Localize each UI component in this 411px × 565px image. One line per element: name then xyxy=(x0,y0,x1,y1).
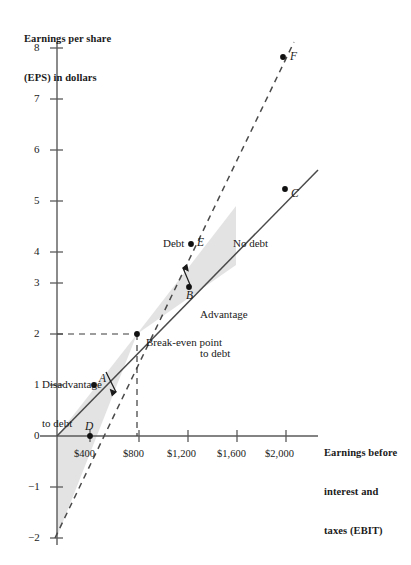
y-axis-title-line2: (EPS) in dollars xyxy=(24,71,111,84)
x-tick-label-2000: $2,000 xyxy=(265,448,294,459)
y-tick-label-5: 5 xyxy=(34,194,40,206)
y-tick-label-neg2: −2 xyxy=(28,531,40,543)
no-debt-line-label: No debt xyxy=(233,237,268,250)
y-tick-label-1: 1 xyxy=(34,378,40,390)
point-label-E: E xyxy=(197,236,204,248)
y-tick-label-8: 8 xyxy=(34,41,40,53)
y-tick-label-3: 3 xyxy=(34,276,40,288)
disadvantage-to-debt-line1: Disadvantage xyxy=(42,378,102,391)
y-tick-label-4: 4 xyxy=(34,245,40,257)
y-tick-label-7: 7 xyxy=(34,92,40,104)
y-tick-label-neg1: −1 xyxy=(28,480,40,492)
eps-ebit-chart: Earnings per share (EPS) in dollars Earn… xyxy=(0,0,411,565)
point-E xyxy=(188,241,194,247)
point-F xyxy=(280,54,286,60)
advantage-to-debt-line2: to debt xyxy=(200,347,248,360)
debt-line xyxy=(55,42,294,538)
y-tick-label-2: 2 xyxy=(34,327,40,339)
x-axis-title-line2: interest and xyxy=(324,485,397,498)
point-C xyxy=(282,186,288,192)
disadvantage-to-debt-line2: to debt xyxy=(42,417,102,430)
x-tick-label-1600: $1,600 xyxy=(217,448,246,459)
y-tick-label-0: 0 xyxy=(34,429,40,441)
point-label-C: C xyxy=(291,187,299,199)
advantage-to-debt-line1: Advantage xyxy=(200,308,248,321)
disadvantage-to-debt-label: Disadvantage to debt xyxy=(42,352,102,456)
point-label-B: B xyxy=(186,289,193,301)
x-axis-title-line1: Earnings before xyxy=(324,446,397,459)
x-tick-label-1200: $1,200 xyxy=(167,448,196,459)
point-label-F: F xyxy=(290,50,297,62)
advantage-to-debt-label: Advantage to debt xyxy=(200,282,248,386)
debt-line-label: Debt xyxy=(163,237,184,250)
y-tick-label-6: 6 xyxy=(34,143,40,155)
x-axis-title-line3: taxes (EBIT) xyxy=(324,524,397,537)
break-even-dot xyxy=(134,331,140,337)
x-axis-title: Earnings before interest and taxes (EBIT… xyxy=(324,420,397,563)
x-tick-label-800: $800 xyxy=(123,448,144,459)
